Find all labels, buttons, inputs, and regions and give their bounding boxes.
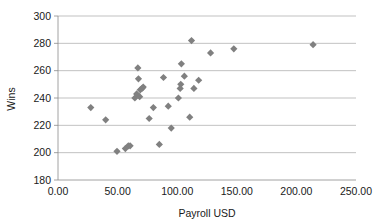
y-axis-tick-labels: 180200220240260280300 <box>33 10 51 186</box>
data-point <box>230 45 237 52</box>
x-tick-label-250: 250.00 <box>340 185 372 197</box>
x-tick-label-0: 0.00 <box>48 185 69 197</box>
scatter-chart: 180200220240260280300 0.0050.00100.00150… <box>0 0 380 223</box>
data-point <box>186 114 193 121</box>
data-point <box>178 60 185 67</box>
data-point <box>195 77 202 84</box>
y-tick-label-300: 300 <box>33 10 51 22</box>
x-axis-tick-labels: 0.0050.00100.00150.00200.00250.00 <box>48 185 372 197</box>
data-point <box>309 41 316 48</box>
data-point <box>135 75 142 82</box>
x-tick-label-50: 50.00 <box>104 185 130 197</box>
y-tick-label-220: 220 <box>33 119 51 131</box>
y-tick-label-200: 200 <box>33 146 51 158</box>
data-point <box>156 141 163 148</box>
data-point <box>160 74 167 81</box>
data-point <box>190 85 197 92</box>
x-axis-title: Payroll USD <box>178 207 236 219</box>
y-tick-label-280: 280 <box>33 37 51 49</box>
data-point <box>181 73 188 80</box>
data-points <box>87 37 317 155</box>
data-point <box>165 103 172 110</box>
data-point <box>175 94 182 101</box>
y-axis-title: Wins <box>5 87 17 110</box>
gridlines <box>58 16 356 153</box>
x-tick-label-150: 150.00 <box>221 185 253 197</box>
data-point <box>150 104 157 111</box>
x-tick-label-100: 100.00 <box>161 185 193 197</box>
x-tick-label-200: 200.00 <box>280 185 312 197</box>
data-point <box>87 104 94 111</box>
data-point <box>207 49 214 56</box>
y-tick-label-240: 240 <box>33 92 51 104</box>
chart-canvas: 180200220240260280300 0.0050.00100.00150… <box>0 0 380 223</box>
y-tick-label-180: 180 <box>33 174 51 186</box>
y-tick-label-260: 260 <box>33 64 51 76</box>
data-point <box>146 115 153 122</box>
data-point <box>113 148 120 155</box>
data-point <box>102 116 109 123</box>
